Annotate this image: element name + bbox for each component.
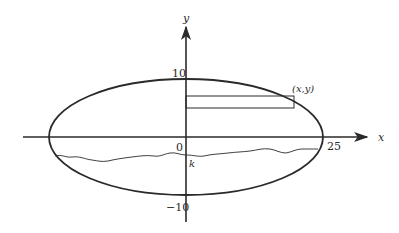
level-label: k (189, 158, 195, 169)
tick-label-y-top: 10 (172, 67, 186, 80)
ellipse-diagram: y x 0 10 −10 25 (x,y) k (0, 0, 399, 233)
tick-label-y-bottom: −10 (166, 201, 189, 214)
rectangle-strip (186, 96, 294, 108)
y-axis-label: y (182, 12, 190, 25)
origin-label: 0 (176, 141, 183, 154)
x-axis-label: x (378, 131, 385, 144)
diagram-canvas: y x 0 10 −10 25 (x,y) k (0, 0, 399, 233)
point-label: (x,y) (292, 83, 314, 94)
tick-label-x-right: 25 (327, 140, 341, 153)
